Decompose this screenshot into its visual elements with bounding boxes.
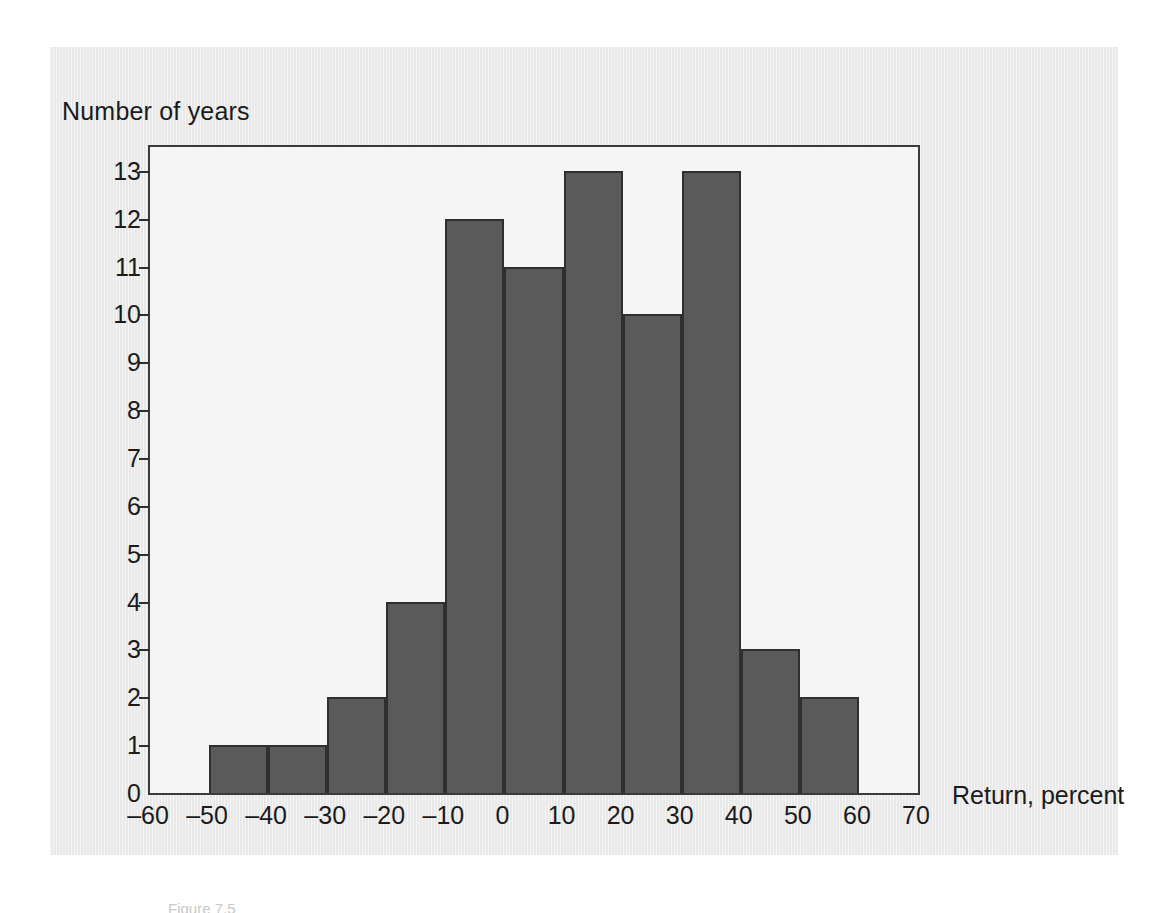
x-tick-label: 20 [607, 801, 635, 830]
y-tick-label: 8 [127, 396, 141, 425]
y-tick-label: 3 [127, 635, 141, 664]
y-tick-label: 5 [127, 539, 141, 568]
y-tick-label: 7 [127, 444, 141, 473]
histogram-figure: Number of years 012345678910111213 –60–5… [0, 0, 1159, 913]
y-tick-label: 13 [113, 156, 141, 185]
figure-page: Number of years 012345678910111213 –60–5… [0, 0, 1159, 913]
y-tick-label: 12 [113, 204, 141, 233]
histogram-bar [386, 602, 445, 793]
x-tick-label: –60 [127, 801, 169, 830]
histogram-bar [504, 267, 563, 793]
x-axis-title: Return, percent [952, 781, 1124, 810]
histogram-bar [741, 649, 800, 793]
x-tick-label: 30 [666, 801, 694, 830]
x-tick-label: 60 [843, 801, 871, 830]
y-tick-label: 9 [127, 348, 141, 377]
y-tick-label: 4 [127, 587, 141, 616]
y-tick-label: 11 [115, 252, 141, 281]
plot-frame: 012345678910111213 [148, 145, 920, 795]
plot-area [150, 147, 918, 793]
x-tick-label: 40 [725, 801, 753, 830]
histogram-bar [268, 745, 327, 793]
histogram-bar [209, 745, 268, 793]
figure-caption: Figure 7.5 [168, 900, 236, 913]
y-axis-title: Number of years [62, 97, 250, 126]
histogram-bar [682, 171, 741, 793]
y-tick-label: 1 [127, 731, 141, 760]
x-tick-label: –10 [423, 801, 465, 830]
histogram-bar [623, 314, 682, 793]
x-tick-label: –40 [245, 801, 287, 830]
x-tick-label: –30 [304, 801, 346, 830]
x-tick-label: 10 [548, 801, 576, 830]
histogram-bar [445, 219, 504, 793]
x-tick-label: 0 [496, 801, 510, 830]
y-tick-label: 2 [127, 683, 141, 712]
y-tick-label: 6 [127, 491, 141, 520]
histogram-bar [800, 697, 859, 793]
histogram-bar [327, 697, 386, 793]
x-tick-label: 50 [784, 801, 812, 830]
x-tick-label: 70 [902, 801, 930, 830]
y-tick-label: 10 [113, 300, 141, 329]
histogram-bar [564, 171, 623, 793]
x-tick-label: –20 [363, 801, 405, 830]
x-axis: –60–50–40–30–20–10010203040506070 [148, 795, 920, 855]
x-tick-label: –50 [186, 801, 228, 830]
